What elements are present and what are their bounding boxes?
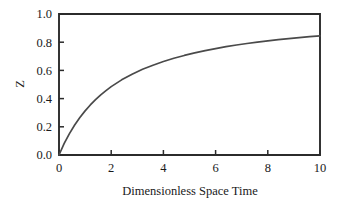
x-axis-tick-labels: 0246810: [56, 161, 326, 175]
y-tick-label: 0.0: [36, 148, 52, 162]
chart-figure: 0.00.20.40.60.81.0 0246810 Z Dimensionle…: [0, 0, 340, 204]
y-tick-label: 0.4: [36, 92, 52, 106]
y-axis-title: Z: [13, 80, 27, 88]
x-tick-label: 2: [108, 161, 114, 175]
x-tick-label: 8: [265, 161, 271, 175]
plot-spines: [59, 14, 320, 155]
x-axis-title: Dimensionless Space Time: [122, 184, 258, 198]
x-tick-label: 0: [56, 161, 62, 175]
series-line-z: [59, 36, 320, 155]
x-tick-label: 6: [212, 161, 218, 175]
y-tick-label: 0.2: [36, 120, 52, 134]
y-axis-tick-labels: 0.00.20.40.60.81.0: [36, 7, 52, 162]
y-tick-label: 0.6: [36, 64, 52, 78]
data-series-group: [59, 36, 320, 155]
y-tick-label: 1.0: [36, 7, 52, 21]
x-tick-label: 4: [160, 161, 167, 175]
chart-canvas: 0.00.20.40.60.81.0 0246810 Z Dimensionle…: [0, 0, 340, 204]
axes-frame: [59, 14, 320, 155]
y-tick-label: 0.8: [36, 36, 52, 50]
x-tick-label: 10: [314, 161, 327, 175]
